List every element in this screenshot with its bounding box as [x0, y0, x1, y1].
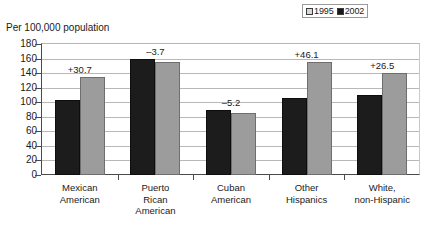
bar-1995-white-non-hispanic: [382, 73, 407, 175]
bar-group-annotation: –3.7: [118, 47, 194, 57]
x-axis-label: PuertoRicanAmerican: [118, 182, 194, 217]
y-axis-label: 180: [5, 39, 37, 49]
legend-swatch-2002-icon: [337, 8, 344, 15]
x-axis-separator: [269, 175, 270, 180]
y-axis-label: 20: [5, 155, 37, 165]
x-axis-label: CubanAmerican: [193, 182, 269, 205]
x-axis-label-line: White,: [344, 182, 420, 194]
x-axis-label: White,non-Hispanic: [344, 182, 420, 205]
x-axis-separator: [118, 175, 119, 180]
y-axis-tick: [35, 59, 41, 60]
y-axis-tick: [35, 160, 41, 161]
bar-1995-other-hispanics: [307, 62, 332, 175]
bar-2002-cuban-american: [206, 110, 231, 176]
y-axis-label: 40: [5, 141, 37, 151]
y-axis-label: 120: [5, 83, 37, 93]
bar-group: [269, 44, 345, 175]
chart-legend: 1995 2002: [302, 4, 368, 18]
x-axis-label: MexicanAmerican: [42, 182, 118, 205]
bar-2002-mexican-american: [55, 100, 80, 175]
x-axis-label-line: Hispanics: [269, 194, 345, 206]
bar-group-annotation: +26.5: [344, 61, 420, 71]
y-axis-tick: [35, 146, 41, 147]
legend-entry-1995: 1995: [306, 7, 334, 16]
y-axis-tick: [35, 44, 41, 45]
y-axis-tick: [35, 175, 41, 176]
bar-1995-mexican-american: [80, 77, 105, 175]
bar-1995-puerto-rican-american: [155, 62, 180, 175]
y-axis-tick: [35, 102, 41, 103]
chart-screenshot: 1995 2002 Per 100,000 population 1801601…: [0, 0, 434, 230]
x-axis-label-line: Puerto: [118, 182, 194, 194]
x-axis-label-line: Rican: [118, 194, 194, 206]
x-axis-label-line: Mexican: [42, 182, 118, 194]
bar-group-annotation: –5.2: [193, 98, 269, 108]
y-axis-tick: [35, 131, 41, 132]
x-axis-separator: [344, 175, 345, 180]
legend-label-2002: 2002: [345, 7, 365, 16]
y-axis-tick: [35, 88, 41, 89]
x-axis-separator: [193, 175, 194, 180]
bar-group: [118, 44, 194, 175]
y-axis-label: 100: [5, 97, 37, 107]
legend-entry-2002: 2002: [337, 7, 365, 16]
x-axis-label-line: American: [118, 205, 194, 217]
y-axis-label: 140: [5, 68, 37, 78]
y-axis-label: 160: [5, 54, 37, 64]
bar-group-annotation: +30.7: [42, 65, 118, 75]
y-axis-label: 0: [5, 170, 37, 180]
legend-swatch-1995-icon: [306, 8, 313, 15]
bar-2002-puerto-rican-american: [130, 59, 155, 175]
x-axis-label-line: Other: [269, 182, 345, 194]
x-axis-label-line: American: [193, 194, 269, 206]
bar-2002-white-non-hispanic: [357, 95, 382, 175]
x-axis-label-line: American: [42, 194, 118, 206]
bar-1995-cuban-american: [231, 113, 256, 175]
legend-label-1995: 1995: [314, 7, 334, 16]
x-axis-label-line: non-Hispanic: [344, 194, 420, 206]
y-axis-tick: [35, 73, 41, 74]
y-axis-tick: [35, 117, 41, 118]
bar-group: [193, 44, 269, 175]
x-axis-label: OtherHispanics: [269, 182, 345, 205]
y-axis: 180160140120100806040200: [0, 0, 37, 230]
bar-2002-other-hispanics: [282, 98, 307, 175]
bar-group-annotation: +46.1: [269, 50, 345, 60]
y-axis-label: 80: [5, 112, 37, 122]
y-axis-label: 60: [5, 126, 37, 136]
x-axis-label-line: Cuban: [193, 182, 269, 194]
